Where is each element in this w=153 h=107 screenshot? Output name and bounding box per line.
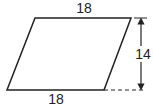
top-side-label: 18 <box>76 0 92 16</box>
parallelogram-shape <box>7 18 131 90</box>
bottom-side-label: 18 <box>48 91 64 107</box>
height-label: 14 <box>135 46 151 62</box>
parallelogram-diagram: 18 18 14 <box>0 0 153 107</box>
